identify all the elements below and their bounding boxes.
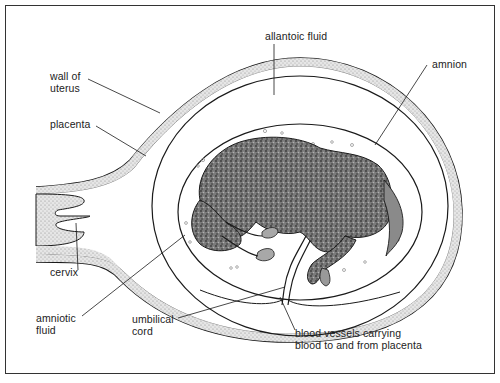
label-allantoic-fluid: allantoic fluid bbox=[265, 30, 327, 42]
label-amniotic-fluid-line1: amniotic bbox=[36, 312, 76, 324]
label-amnion: amnion bbox=[432, 58, 467, 70]
leader-placenta bbox=[96, 126, 146, 156]
label-wall-of-uterus-line1: wall of bbox=[50, 70, 80, 82]
label-umbilical-cord-line1: umbilical bbox=[132, 313, 174, 325]
label-amniotic-fluid-line2: fluid bbox=[36, 324, 56, 336]
leader-amniotic-fluid bbox=[82, 235, 185, 316]
label-blood-vessels-line2: blood to and from placenta bbox=[295, 339, 422, 351]
uterus-diagram bbox=[0, 0, 500, 383]
label-cervix: cervix bbox=[50, 266, 78, 278]
leader-wall-of-uterus bbox=[88, 79, 160, 113]
leader-umbilical-cord bbox=[178, 287, 285, 318]
label-placenta: placenta bbox=[50, 118, 91, 130]
label-blood-vessels-line1: blood vessels carrying bbox=[295, 327, 401, 339]
label-wall-of-uterus-line2: uterus bbox=[50, 82, 80, 94]
leader-amnion bbox=[375, 65, 427, 145]
label-umbilical-cord-line2: cord bbox=[132, 325, 153, 337]
